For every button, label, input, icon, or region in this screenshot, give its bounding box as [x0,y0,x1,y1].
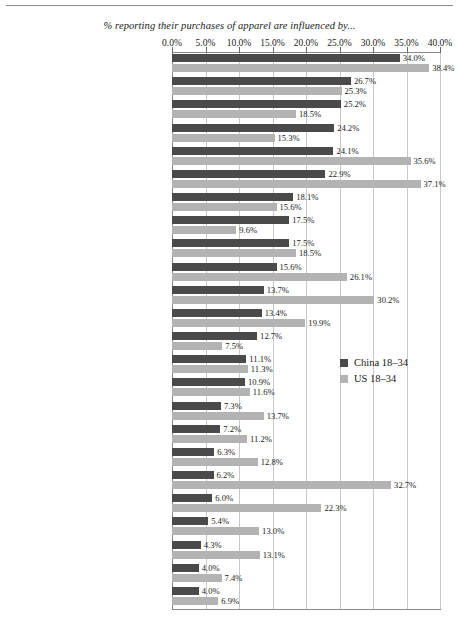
legend-item: US 18–34 [340,373,408,384]
bar-value-label: 19.9% [308,319,330,327]
plot-area: In-store promotion34.0%38.4%TV broadcast… [172,53,440,609]
bar-china [172,147,333,155]
bar-china [172,170,325,178]
bar-us [172,527,259,535]
bar-row: Internet advertising15.6%26.1% [172,262,440,285]
bar-china [172,77,351,85]
bar-china [172,564,199,572]
bar-us [172,87,342,95]
bar-value-label: 13.4% [265,309,287,317]
bar-us [172,273,347,281]
bar-value-label: 17.5% [292,216,314,224]
x-tick-mark [206,47,207,53]
grouped-bar-chart: % reporting their purchases of apparel a… [0,0,459,627]
bar-value-label: 30.2% [377,296,399,304]
bar-china [172,263,277,271]
bar-china [172,124,334,132]
bar-us [172,435,247,443]
bar-value-label: 25.2% [344,100,366,108]
bar-china [172,448,214,456]
bar-value-label: 18.5% [299,249,321,257]
x-tick-mark [239,47,240,53]
bar-value-label: 17.5% [292,239,314,247]
bar-row: Read article on product18.1%15.6% [172,192,440,215]
bar-china [172,100,341,108]
bar-us [172,249,296,257]
bar-value-label: 22.3% [324,504,346,512]
bar-value-label: 6.9% [221,597,239,605]
bar-us [172,551,260,559]
bar-us [172,504,321,512]
bar-value-label: 18.5% [299,110,321,118]
bar-row: E-mail advertising6.2%32.7% [172,470,440,493]
bar-row: Radio7.3%13.7% [172,401,440,424]
x-tick-mark [340,47,341,53]
bar-value-label: 25.3% [345,87,367,95]
bar-us [172,180,421,188]
bar-china [172,378,245,386]
bar-value-label: 18.1% [296,193,318,201]
x-axis-line-bottom [172,609,441,610]
legend-swatch [340,375,348,383]
bar-value-label: 26.1% [350,273,372,281]
x-tick-mark [373,47,374,53]
bar-value-label: 4.0% [202,564,220,572]
x-tick-mark [273,47,274,53]
bar-row: Web radio12.7%7.5% [172,331,440,354]
bar-china [172,239,289,247]
bar-value-label: 12.7% [260,332,282,340]
bar-value-label: 22.9% [328,170,350,178]
bar-row: Mobile devices5.4%13.0% [172,516,440,539]
x-tick-mark [440,47,441,53]
legend-item: China 18–34 [340,357,408,368]
bar-row: Magazines13.7%30.2% [172,285,440,308]
bar-value-label: 6.2% [217,471,235,479]
bar-value-label: 13.7% [267,412,289,420]
legend-label: China 18–34 [354,357,408,368]
bar-row: Word of mouth24.1%35.6% [172,146,440,169]
bar-china [172,587,199,595]
bar-us [172,458,258,466]
bar-value-label: 37.1% [424,180,446,188]
bar-row: Yellow pages4.0%6.9% [172,586,440,609]
bar-china [172,402,221,410]
bar-value-label: 26.7% [354,77,376,85]
bar-value-label: 10.9% [248,378,270,386]
bar-value-label: 12.8% [261,458,283,466]
bar-china [172,517,208,525]
bar-value-label: 34.0% [403,54,425,62]
bar-us [172,157,411,165]
x-tick-mark [407,47,408,53]
bar-us [172,412,264,420]
bar-us [172,64,429,72]
bar-row: Watch video on cell phone4.3%13.1% [172,540,440,563]
bar-row: Text messaging on cell phone7.2%11.2% [172,424,440,447]
bar-us [172,574,222,582]
bar-china [172,494,212,502]
bar-value-label: 38.4% [432,64,454,72]
bar-value-label: 13.0% [262,527,284,535]
chart-title: % reporting their purchases of apparel a… [0,20,459,31]
bar-value-label: 15.3% [278,134,300,142]
gridline [440,53,441,609]
bar-row: Advertising inserts25.2%18.5% [172,99,440,122]
bar-value-label: 35.6% [414,157,436,165]
bar-us [172,134,275,142]
bar-row: Newspapers6.3%12.8% [172,447,440,470]
bar-row: Cable13.4%19.9% [172,308,440,331]
bar-row: Coupons22.9%37.1% [172,169,440,192]
bar-value-label: 4.0% [202,587,220,595]
bar-value-label: 11.6% [253,388,275,396]
bar-value-label: 5.4% [211,517,229,525]
x-axis-tick-labels: 0.0%5.0%10.0%15.0%20.0%25.0%30.0%35.0%40… [0,38,459,51]
legend-swatch [340,359,348,367]
bar-row: TV broadcast26.7%25.3% [172,76,440,99]
bar-row: IM17.5%9.6% [172,215,440,238]
bar-value-label: 13.7% [267,286,289,294]
bar-us [172,342,222,350]
bar-china [172,355,246,363]
bar-value-label: 6.0% [215,494,233,502]
bar-china [172,309,262,317]
bar-row: In-store promotion34.0%38.4% [172,53,440,76]
bar-china [172,332,257,340]
